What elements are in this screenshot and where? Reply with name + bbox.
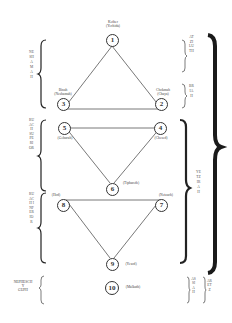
aretz-label: ARETZ <box>207 279 212 292</box>
chokmah-label: Chokmah (Chaya) <box>150 88 176 96</box>
connector-lines <box>0 0 232 323</box>
node-1: 1 <box>106 34 119 47</box>
node-soul: (Chaya) <box>150 92 176 96</box>
diagram-canvas: Kether (Yechida) 1 Binah (Neshamah) 3 Ch… <box>0 0 232 323</box>
nephesch-label: NEPHESCH Y GUPH <box>8 280 38 293</box>
chesed-label: (Chesed) <box>148 136 174 140</box>
bracket-assiah <box>187 277 190 303</box>
node-soul: (Yechida) <box>100 24 126 28</box>
ruach-superior-label: RUACH SUPERIOR <box>29 118 34 150</box>
bracket-ruach-inferior <box>38 193 46 263</box>
node-9: 9 <box>106 258 119 271</box>
netzach-label: (Netzach) <box>153 193 179 197</box>
atziluth-label: ATZILUTH <box>189 35 194 53</box>
hod-label: (Hod) <box>48 193 64 197</box>
bracket-ruach-superior <box>38 120 46 191</box>
bracket-briah <box>182 84 187 108</box>
node-8: 8 <box>57 199 70 212</box>
tiphareth-label: (Tiphareth) <box>118 181 144 185</box>
bracket-aretz <box>203 277 206 303</box>
geburah-label: (Geburah) <box>52 136 78 140</box>
yesod-label: (Yesod) <box>121 262 141 266</box>
node-7: 7 <box>155 199 168 212</box>
guph-line: GUPH <box>8 288 38 292</box>
bracket-yetzirah <box>180 120 190 263</box>
kether-label: Kether (Yechida) <box>100 20 126 28</box>
node-6: 6 <box>106 183 119 196</box>
briah-label: BRIAH <box>189 84 194 99</box>
node-4: 4 <box>154 122 167 135</box>
node-soul: (Neshamah) <box>50 92 76 96</box>
binah-label: Binah (Neshamah) <box>50 88 76 96</box>
node-10: 10 <box>105 281 119 295</box>
assiah-label: ASSIAH <box>191 277 196 294</box>
bracket-nephesch <box>39 276 44 304</box>
bracket-outer-large <box>208 35 221 273</box>
ruach-inferior-label: RUACH INFERIOR <box>29 192 34 224</box>
bracket-neshamah <box>38 40 46 108</box>
node-5: 5 <box>58 122 71 135</box>
yetzirah-label: YETZIRAH <box>196 170 201 195</box>
bracket-atziluth <box>182 40 187 72</box>
neshamah-label: NESHAMAH <box>29 50 34 80</box>
malkuth-label: (Malkuth) <box>122 285 144 289</box>
node-2: 2 <box>155 98 168 111</box>
node-3: 3 <box>57 98 70 111</box>
